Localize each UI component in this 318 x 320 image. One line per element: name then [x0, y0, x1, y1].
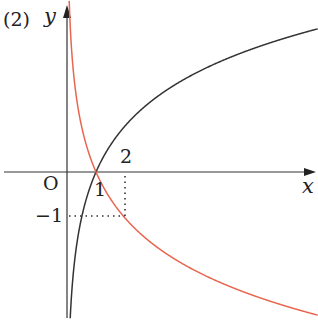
- tick-y-minus-1: −1: [35, 206, 63, 225]
- x-axis-label: x: [302, 176, 314, 197]
- tick-x-2: 2: [120, 147, 132, 166]
- y-axis-label: y: [44, 6, 56, 27]
- graph-canvas: [0, 0, 318, 320]
- log-half-curve: [69, 1, 318, 315]
- origin-label: O: [43, 174, 59, 193]
- panel-label: (2): [3, 10, 30, 29]
- tick-x-1: 1: [94, 180, 106, 199]
- log2-curve: [70, 29, 318, 318]
